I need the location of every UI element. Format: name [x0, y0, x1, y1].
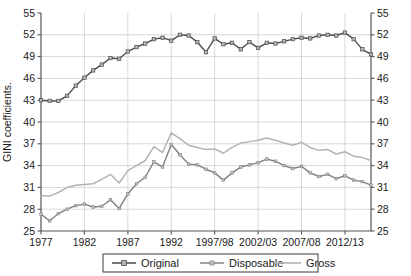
data-point	[265, 41, 268, 44]
y-tick-label-left: 28	[23, 203, 35, 215]
data-point	[265, 158, 268, 161]
y-tick-label-left: 40	[23, 116, 35, 128]
y-tick-label-left: 46	[23, 72, 35, 84]
data-point	[361, 180, 364, 183]
y-tick-label-left: 31	[23, 181, 35, 193]
data-point	[170, 143, 173, 146]
data-point	[187, 34, 190, 37]
legend-label: Gross	[306, 257, 336, 269]
data-point	[161, 36, 164, 39]
data-point	[204, 51, 207, 54]
data-point	[231, 172, 234, 175]
data-point	[196, 40, 199, 43]
data-point	[283, 164, 286, 167]
x-tick-label: 1982	[73, 236, 97, 248]
data-point	[317, 34, 320, 37]
x-tick-label: 1977	[29, 236, 53, 248]
data-point	[352, 179, 355, 182]
y-axis-title-text: GINI coefficients.	[1, 82, 13, 162]
data-point	[57, 99, 60, 102]
y-tick-label-right: 37	[377, 137, 389, 149]
data-point	[39, 99, 42, 102]
y-tick-label-left: 55	[23, 7, 35, 19]
data-point	[48, 99, 51, 102]
y-tick-label-right: 40	[377, 116, 389, 128]
data-point	[135, 182, 138, 185]
x-tick-label: 1997/98	[196, 236, 234, 248]
data-point	[248, 164, 251, 167]
data-point	[187, 163, 190, 166]
y-tick-label-right: 52	[377, 28, 389, 40]
data-point	[309, 37, 312, 40]
data-point	[257, 161, 260, 164]
data-point	[100, 63, 103, 66]
y-tick-label-left: 52	[23, 28, 35, 40]
x-tick-label: 2002/03	[239, 236, 277, 248]
data-point	[65, 94, 68, 97]
x-tick-label: 1987	[116, 236, 140, 248]
legend-label: Original	[141, 257, 179, 269]
data-point	[127, 193, 130, 196]
data-point	[292, 167, 295, 170]
data-point	[170, 39, 173, 42]
data-point	[274, 160, 277, 163]
data-point	[248, 40, 251, 43]
data-point	[213, 172, 216, 175]
y-tick-label-right: 49	[377, 50, 389, 62]
data-point	[91, 69, 94, 72]
data-point	[274, 42, 277, 45]
chart-svg: 2528313437404346495255 25283134374043464…	[0, 0, 411, 276]
data-point	[352, 37, 355, 40]
data-point	[239, 166, 242, 169]
data-point	[343, 31, 346, 34]
data-point	[92, 206, 95, 209]
data-point	[57, 212, 60, 215]
data-point	[335, 34, 338, 37]
data-point	[239, 48, 242, 51]
x-tick-label: 1992	[160, 236, 184, 248]
data-point	[335, 177, 338, 180]
x-tick-label: 2007/08	[283, 236, 321, 248]
y-axis-title: GINI coefficients.	[1, 82, 13, 162]
data-point	[179, 153, 182, 156]
data-point	[48, 220, 51, 223]
data-point	[66, 208, 69, 211]
data-point	[152, 37, 155, 40]
gini-line-chart: 2528313437404346495255 25283134374043464…	[0, 0, 411, 276]
data-point	[161, 166, 164, 169]
data-point	[74, 84, 77, 87]
data-point	[100, 205, 103, 208]
data-point	[135, 45, 138, 48]
y-tick-label-right: 28	[377, 203, 389, 215]
data-point	[361, 48, 364, 51]
y-tick-label-right: 34	[377, 159, 389, 171]
y-tick-label-right: 25	[377, 225, 389, 237]
data-point	[300, 165, 303, 168]
data-point	[117, 57, 120, 60]
y-tick-label-left: 43	[23, 94, 35, 106]
data-point	[326, 33, 329, 36]
legend-swatch-marker	[210, 261, 214, 265]
y-tick-label-left: 37	[23, 137, 35, 149]
data-point	[144, 176, 147, 179]
data-point	[230, 41, 233, 44]
data-point	[178, 33, 181, 36]
x-tick-label: 2012/13	[326, 236, 364, 248]
data-point	[109, 56, 112, 59]
chart-legend[interactable]: OriginalDisposableGross	[103, 254, 336, 272]
data-point	[74, 204, 77, 207]
data-point	[282, 40, 285, 43]
data-point	[222, 43, 225, 46]
data-point	[109, 198, 112, 201]
data-point	[118, 207, 121, 210]
y-tick-label-right: 55	[377, 7, 389, 19]
y-tick-label-right: 31	[377, 181, 389, 193]
data-point	[40, 213, 43, 216]
data-point	[144, 42, 147, 45]
data-point	[318, 175, 321, 178]
data-point	[256, 46, 259, 49]
y-tick-label-left: 34	[23, 159, 35, 171]
data-point	[196, 164, 199, 167]
data-point	[326, 173, 329, 176]
data-point	[291, 37, 294, 40]
